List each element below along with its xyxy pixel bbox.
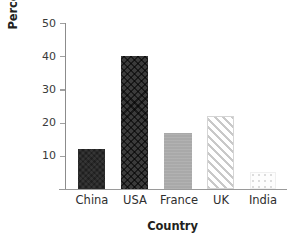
bar-usa[interactable] (121, 56, 148, 189)
x-tick-label-india: India (236, 193, 290, 207)
y-tick-mark (60, 23, 65, 24)
y-tick-label: 40 (28, 51, 56, 62)
y-tick-mark (60, 89, 65, 90)
bar-chart: Percentage 1020304050 ChinaUSAFranceUKIn… (0, 0, 296, 242)
y-tick-label: 10 (28, 150, 56, 161)
y-tick-mark (60, 123, 65, 124)
bar-china[interactable] (78, 149, 105, 189)
x-axis-line (59, 189, 287, 190)
y-tick-label: 30 (28, 84, 56, 95)
y-axis-line (65, 23, 66, 190)
bar-india[interactable] (250, 172, 276, 189)
bar-uk[interactable] (207, 116, 234, 189)
bar-france[interactable] (164, 133, 192, 189)
y-tick-mark (60, 156, 65, 157)
y-tick-mark (60, 56, 65, 57)
x-axis-title: Country (60, 219, 285, 233)
y-axis-title: Percentage (2, 0, 24, 58)
y-tick-label: 20 (28, 117, 56, 128)
y-tick-label: 50 (28, 18, 56, 29)
